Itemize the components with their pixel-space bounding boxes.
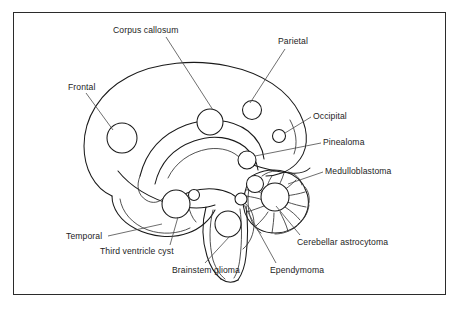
label-frontal: Frontal <box>68 83 95 92</box>
tentorium <box>250 164 310 173</box>
lesion-corpus-callosum <box>197 109 223 135</box>
lesion-brainstem-glioma <box>215 211 241 237</box>
leader-brainstem-glioma <box>205 236 230 263</box>
label-brainstem-glioma: Brainstem glioma <box>172 266 240 275</box>
figure-canvas: Frontal Corpus callosum Parietal Occipit… <box>0 0 459 312</box>
label-occipital: Occipital <box>313 112 347 121</box>
lesion-third-ventricle-cyst <box>162 190 190 218</box>
label-temporal: Temporal <box>66 232 102 241</box>
label-pinealoma: Pinealoma <box>323 138 365 147</box>
label-corpus-callosum: Corpus callosum <box>113 26 179 35</box>
leader-frontal <box>86 93 113 130</box>
label-third-ventricle-cyst: Third ventricle cyst <box>100 247 174 256</box>
label-cerebellar-astrocytoma: Cerebellar astrocytoma <box>297 238 388 247</box>
lesion-cerebellar-astrocytoma <box>247 176 264 193</box>
label-medulloblastoma: Medulloblastoma <box>325 167 391 176</box>
leader-third-ventricle-cyst <box>170 217 178 245</box>
lesion-pinealoma <box>238 151 256 169</box>
leader-corpus-callosum <box>166 37 213 110</box>
lateral-ventricle <box>168 148 241 178</box>
corpus-callosum-genu <box>138 176 164 202</box>
label-ependymoma: Ependymoma <box>270 266 324 275</box>
lesion-temporal-small <box>189 190 200 201</box>
leader-ependymoma <box>244 205 276 263</box>
leader-temporal <box>108 224 162 236</box>
lesion-occipital <box>273 130 286 143</box>
leader-pinealoma <box>255 143 321 156</box>
lesion-ependymoma <box>235 193 247 205</box>
medulla-outline <box>221 279 238 282</box>
lesion-medulloblastoma <box>261 183 289 211</box>
leader-occipital <box>285 117 311 133</box>
label-parietal: Parietal <box>278 37 308 46</box>
lesion-parietal <box>243 101 262 120</box>
leader-parietal <box>250 49 285 103</box>
